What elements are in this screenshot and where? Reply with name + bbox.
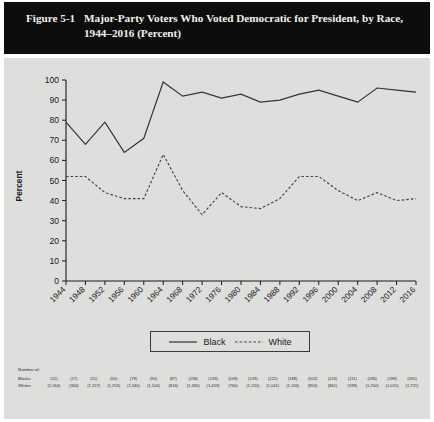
y-axis-group: 0102030405060708090100 Percent: [14, 75, 66, 286]
y-tick-group: 0102030405060708090100: [45, 75, 66, 286]
x-tick-label: 1968: [165, 285, 185, 305]
figure-caption: Major-Party Voters Who Voted Democratic …: [84, 11, 406, 41]
counts-row-label-blacks: Blacks: [18, 375, 44, 382]
y-tick-label: 100: [45, 75, 60, 85]
counts-cell-black: (189): [382, 375, 402, 382]
chart-panel: 0102030405060708090100 Percent 194419481…: [4, 58, 430, 419]
x-tick-label: 1948: [68, 285, 88, 305]
counts-cell-black: (87): [163, 375, 183, 382]
x-tick-label: 1964: [145, 285, 165, 305]
x-tick-label: 1992: [282, 285, 302, 305]
x-tick-group: 1944194819521956196019641968197219761980…: [48, 281, 418, 304]
y-tick-label: 60: [49, 155, 59, 165]
counts-cell-black: (196): [362, 375, 382, 382]
counts-row-label-whites: Whites: [18, 382, 44, 389]
counts-cell-white: (1,430): [183, 382, 203, 389]
counts-cell-white: (1,564): [44, 382, 64, 389]
counts-cell-white: (900): [303, 382, 323, 389]
x-tick-label: 1960: [126, 285, 146, 305]
y-tick-label: 0: [54, 276, 59, 286]
table-row: Whites (1,564)(364)(1,257)(1,253)(1,340)…: [18, 382, 422, 389]
x-tick-label: 1980: [223, 285, 243, 305]
counts-cell-black: (79): [124, 375, 144, 382]
x-tick-label: 1996: [301, 285, 321, 305]
table-row: Blacks (52)(17)(51)(50)(79)(94)(87)(138)…: [18, 375, 422, 382]
legend-item-white: White: [234, 337, 292, 347]
counts-cell-white: (364): [64, 382, 84, 389]
counts-cell-white: (599): [342, 382, 362, 389]
x-tick-label: 1976: [204, 285, 224, 305]
counts-cell-white: (1,134): [283, 382, 303, 389]
counts-cell-white: (1,021): [382, 382, 402, 389]
legend-item-black: Black: [168, 337, 225, 347]
plot-area: 0102030405060708090100 Percent 194419481…: [4, 58, 430, 358]
counts-cell-black: (50): [104, 375, 124, 382]
series-group: [66, 82, 416, 215]
figure-title-text: Figure 5-1Major-Party Voters Who Voted D…: [26, 11, 418, 41]
counts-cell-white: (1,220): [243, 382, 263, 389]
x-tick-label: 2016: [398, 285, 418, 305]
x-tick-label: 2008: [359, 285, 379, 305]
y-tick-label: 90: [49, 95, 59, 105]
x-tick-label: 2000: [320, 285, 340, 305]
x-tick-label: 2004: [340, 285, 360, 305]
series-line-white: [66, 154, 416, 214]
counts-table: Blacks (52)(17)(51)(50)(79)(94)(87)(138)…: [18, 375, 422, 389]
counts-cell-white: (861): [322, 382, 342, 389]
counts-cell-black: (129): [243, 375, 263, 382]
legend-label-white: White: [269, 337, 292, 347]
counts-cell-white: (816): [163, 382, 183, 389]
counts-cell-white: (1,459): [203, 382, 223, 389]
y-axis-label: Percent: [14, 170, 24, 201]
counts-cell-white: (1,104): [143, 382, 163, 389]
counts-cell-white: (1,041): [263, 382, 283, 389]
x-tick-label: 1984: [243, 285, 263, 305]
counts-cell-white: (1,250): [362, 382, 382, 389]
counts-cell-white: (1,257): [84, 382, 104, 389]
chart-legend: Black White: [150, 331, 310, 352]
y-tick-label: 50: [49, 176, 59, 186]
counts-cell-black: (17): [64, 375, 84, 382]
counts-cell-white: (1,721): [402, 382, 422, 389]
counts-cell-black: (102): [303, 375, 323, 382]
x-tick-label: 1988: [262, 285, 282, 305]
counts-table-caption: Number of:: [18, 367, 422, 372]
legend-swatch-white-icon: [234, 338, 264, 346]
counts-cell-black: (52): [44, 375, 64, 382]
counts-cell-black: (133): [203, 375, 223, 382]
y-tick-label: 80: [49, 115, 59, 125]
legend-swatch-black-icon: [168, 338, 198, 346]
x-tick-label: 1956: [107, 285, 127, 305]
counts-cell-black: (94): [143, 375, 163, 382]
counts-cell-white: (760): [223, 382, 243, 389]
counts-cell-black: (138): [183, 375, 203, 382]
counts-cell-white: (1,340): [124, 382, 144, 389]
counts-cell-black: (123): [322, 375, 342, 382]
counts-table-block: Number of: Blacks (52)(17)(51)(50)(79)(9…: [18, 367, 422, 389]
x-tick-label: 1952: [87, 285, 107, 305]
x-tick-label: 1944: [48, 285, 68, 305]
figure-number: Figure 5-1: [26, 11, 84, 26]
counts-cell-black: (51): [84, 375, 104, 382]
y-tick-label: 40: [49, 196, 59, 206]
x-tick-label: 1972: [184, 285, 204, 305]
y-tick-label: 10: [49, 256, 59, 266]
y-tick-label: 20: [49, 236, 59, 246]
counts-cell-black: (122): [263, 375, 283, 382]
figure-title-bar: Figure 5-1Major-Party Voters Who Voted D…: [4, 2, 430, 54]
counts-cell-black: (188): [283, 375, 303, 382]
y-tick-label: 30: [49, 216, 59, 226]
counts-cell-black: (265): [402, 375, 422, 382]
counts-cell-white: (1,253): [104, 382, 124, 389]
y-tick-label: 70: [49, 135, 59, 145]
series-line-black: [66, 82, 416, 152]
x-tick-label: 2012: [379, 285, 399, 305]
counts-cell-black: (111): [342, 375, 362, 382]
legend-label-black: Black: [203, 337, 225, 347]
line-chart-svg: 0102030405060708090100 Percent 194419481…: [4, 58, 430, 358]
counts-cell-black: (109): [223, 375, 243, 382]
figure-container: Figure 5-1Major-Party Voters Who Voted D…: [0, 0, 434, 422]
